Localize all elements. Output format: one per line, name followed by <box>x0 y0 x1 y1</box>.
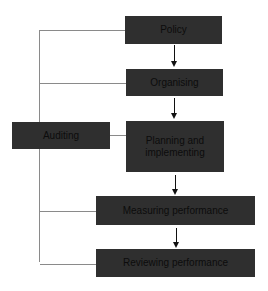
arrow-measuring-to-reviewing <box>176 228 177 243</box>
node-organising: Organising <box>126 69 223 96</box>
node-measuring-performance: Measuring performance <box>96 196 255 225</box>
connector-to-policy <box>39 30 125 31</box>
node-label: Measuring performance <box>123 205 229 217</box>
arrow-policy-to-organising <box>174 45 175 62</box>
node-auditing: Auditing <box>12 122 110 149</box>
node-label: Reviewing performance <box>123 257 228 269</box>
node-reviewing-performance: Reviewing performance <box>96 249 255 277</box>
node-planning-implementing: Planning and implementing <box>126 121 224 172</box>
node-label: Planning and implementing <box>140 135 210 159</box>
node-label: Auditing <box>43 130 79 142</box>
arrow-planning-to-measuring <box>175 175 176 190</box>
node-label: Policy <box>160 24 187 36</box>
node-label: Organising <box>150 77 198 89</box>
connector-to-reviewing <box>40 264 96 265</box>
connector-to-planning <box>110 135 126 136</box>
node-policy: Policy <box>125 16 222 44</box>
connector-to-measuring <box>40 211 96 212</box>
arrow-organising-to-planning <box>174 98 175 114</box>
connector-to-organising <box>39 83 126 84</box>
